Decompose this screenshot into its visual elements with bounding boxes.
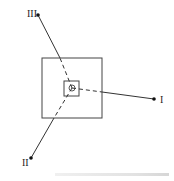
- branch-I-label: I: [160, 94, 163, 105]
- branch-III-dashed-segment: [60, 58, 72, 88]
- branch-I-endpoint-icon: [152, 97, 156, 101]
- branch-I-dashed-segment: [72, 88, 102, 92]
- branch-III-label: III: [27, 8, 37, 19]
- branch-III-solid-segment: [38, 15, 60, 58]
- branch-II-solid-segment: [31, 118, 54, 158]
- branch-II-endpoint-icon: [29, 156, 33, 160]
- branches: IIIIII: [22, 8, 163, 168]
- branch-II-dashed-segment: [54, 88, 72, 118]
- figure-caption: [0, 168, 174, 181]
- orbital-diagram: IIIIII: [0, 0, 174, 181]
- caption-faded-text: [55, 173, 169, 176]
- branch-I-solid-segment: [102, 92, 154, 99]
- branch-II-label: II: [22, 157, 29, 168]
